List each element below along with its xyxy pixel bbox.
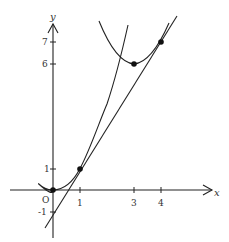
function-graph-figure: x y O 1 3 4 7 6 1 -1	[0, 0, 229, 242]
y-tick-label-neg1: -1	[38, 207, 47, 217]
graph-canvas: x y O 1 3 4 7 6 1 -1	[0, 0, 229, 242]
y-tick-label-1: 1	[44, 164, 50, 174]
y-axis-label: y	[49, 11, 56, 22]
x-tick-label-1: 1	[77, 198, 83, 208]
x-axis-label: x	[214, 187, 220, 198]
marked-points	[50, 39, 164, 193]
point-3-6	[131, 61, 137, 67]
origin-label: O	[42, 195, 49, 205]
point-1-1	[77, 166, 83, 172]
common-tangent-line	[45, 16, 177, 228]
y-tick-label-6: 6	[42, 59, 48, 69]
point-4-7	[158, 39, 164, 45]
x-tick-label-3: 3	[131, 198, 137, 208]
x-tick-label-4: 4	[158, 198, 164, 208]
point-origin	[50, 187, 56, 193]
y-tick-label-7: 7	[42, 37, 48, 47]
